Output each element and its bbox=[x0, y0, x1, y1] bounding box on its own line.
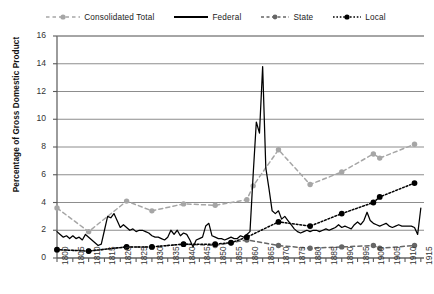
y-tick-label-14: 14 bbox=[0, 59, 46, 68]
series-marker-local bbox=[228, 240, 234, 246]
series-line-federal bbox=[57, 67, 421, 247]
x-tick-label-1840: 1840 bbox=[188, 246, 196, 265]
x-tick-label-1850: 1850 bbox=[219, 246, 227, 265]
series-marker-local bbox=[181, 241, 187, 247]
series-marker-consolidated-total bbox=[307, 182, 312, 187]
y-tick-label-0: 0 bbox=[0, 253, 46, 262]
series-marker-consolidated-total bbox=[149, 208, 154, 213]
x-tick-label-1890: 1890 bbox=[346, 246, 354, 265]
x-tick-label-1810: 1810 bbox=[93, 246, 101, 265]
x-tick-label-1875: 1875 bbox=[298, 246, 306, 265]
series-marker-consolidated-total bbox=[124, 198, 129, 203]
series-marker-consolidated-total bbox=[212, 203, 217, 208]
series-marker-state bbox=[307, 246, 312, 251]
series-marker-local bbox=[307, 223, 313, 229]
series-marker-local bbox=[377, 194, 383, 200]
series-marker-consolidated-total bbox=[412, 142, 417, 147]
x-tick-label-1860: 1860 bbox=[251, 246, 259, 265]
series-marker-consolidated-total bbox=[276, 147, 281, 152]
x-tick-label-1845: 1845 bbox=[203, 246, 211, 265]
series-marker-local bbox=[412, 180, 418, 186]
x-tick-label-1855: 1855 bbox=[235, 246, 243, 265]
series-marker-consolidated-total bbox=[181, 201, 186, 206]
series-marker-consolidated-total bbox=[244, 197, 249, 202]
y-tick-label-6: 6 bbox=[0, 170, 46, 179]
series-marker-local bbox=[244, 234, 250, 240]
series-marker-local bbox=[370, 200, 376, 206]
y-tick-label-4: 4 bbox=[0, 198, 46, 207]
series-marker-consolidated-total bbox=[371, 151, 376, 156]
series-marker-local bbox=[149, 244, 155, 250]
y-tick-label-12: 12 bbox=[0, 87, 46, 96]
x-tick-label-1815: 1815 bbox=[108, 246, 116, 265]
series-marker-consolidated-total bbox=[377, 155, 382, 160]
series-marker-local bbox=[339, 211, 345, 217]
series-marker-consolidated-total bbox=[339, 169, 344, 174]
y-tick-label-10: 10 bbox=[0, 114, 46, 123]
x-tick-label-1870: 1870 bbox=[282, 246, 290, 265]
x-tick-label-1900: 1900 bbox=[377, 246, 385, 265]
y-tick-label-16: 16 bbox=[0, 31, 46, 40]
x-tick-label-1805: 1805 bbox=[77, 246, 85, 265]
x-tick-label-1880: 1880 bbox=[314, 246, 322, 265]
x-tick-label-1915: 1915 bbox=[425, 246, 433, 265]
y-tick-label-2: 2 bbox=[0, 225, 46, 234]
x-tick-label-1800: 1800 bbox=[61, 246, 69, 265]
x-tick-label-1835: 1835 bbox=[172, 246, 180, 265]
x-tick-label-1865: 1865 bbox=[267, 246, 275, 265]
series-marker-state bbox=[339, 244, 344, 249]
series-marker-consolidated-total bbox=[86, 229, 91, 234]
x-tick-label-1830: 1830 bbox=[156, 246, 164, 265]
y-tick-label-8: 8 bbox=[0, 142, 46, 151]
x-tick-label-1895: 1895 bbox=[362, 246, 370, 265]
series-marker-local bbox=[86, 248, 92, 254]
series-marker-local bbox=[276, 219, 282, 225]
x-tick-label-1820: 1820 bbox=[124, 246, 132, 265]
x-tick-label-1910: 1910 bbox=[409, 246, 417, 265]
series-marker-consolidated-total bbox=[54, 205, 59, 210]
x-tick-label-1825: 1825 bbox=[140, 246, 148, 265]
series-line-consolidated-total bbox=[57, 144, 415, 231]
x-tick-label-1905: 1905 bbox=[393, 246, 401, 265]
x-tick-label-1885: 1885 bbox=[330, 246, 338, 265]
